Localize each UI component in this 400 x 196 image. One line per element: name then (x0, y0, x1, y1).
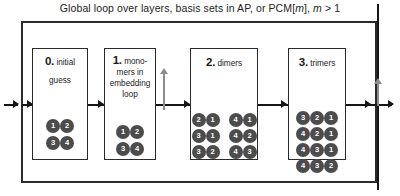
trimer-node: 1 (324, 127, 338, 141)
trimer-node: 3 (310, 143, 324, 157)
node-row: 3 2 1 (296, 111, 338, 125)
trimer-node: 3 (310, 159, 324, 173)
frame-to-stage-0-arrow (27, 100, 33, 108)
monomer-node: 1 (116, 125, 130, 139)
stage-0-to-1-arrow (98, 100, 104, 108)
diagram-title-italic-m-1: m (295, 2, 304, 14)
stage-1-label-line3: embedding (107, 78, 153, 89)
monomer-node: 2 (130, 125, 144, 139)
trimer-node: 4 (296, 143, 310, 157)
dimer-node: 3 (243, 145, 257, 159)
stage-box-monomers[interactable]: 1. mono- mers in embedding loop 1 2 3 4 (104, 48, 156, 160)
node-group: 1 2 (46, 119, 74, 133)
trimer-node: 2 (310, 127, 324, 141)
trimer-group: 3 2 1 (296, 111, 338, 125)
stage-2-heading: 2. dimers (191, 57, 257, 69)
dimer-group: 3 2 (192, 145, 220, 159)
diagram-title-middle: ], (304, 2, 313, 14)
node-row: 1 2 (116, 125, 144, 139)
stage-2-label-line1: dimers (217, 59, 242, 68)
node-group: 3 4 (46, 136, 74, 150)
dimer-node: 4 (229, 145, 243, 159)
embedding-loop-line (163, 72, 165, 110)
dimer-node: 2 (206, 145, 220, 159)
dimer-node: 2 (192, 113, 206, 127)
entry-arrow-head (13, 100, 19, 108)
stage-3-to-exit-line (346, 104, 378, 106)
stage-1-label-line2: mers in (107, 67, 153, 78)
dimer-node: 1 (243, 113, 257, 127)
monomer-node: 1 (46, 119, 60, 133)
dimer-group: 4 2 (229, 129, 257, 143)
stage-0-label-line1: initial (56, 58, 75, 67)
dimer-node: 1 (206, 129, 220, 143)
node-row: 4 3 2 (296, 159, 338, 173)
diagram-title: Global loop over layers, basis sets in A… (0, 2, 400, 14)
monomer-node: 2 (60, 119, 74, 133)
stage-1-to-2-arrow (184, 100, 190, 108)
trimer-node: 2 (324, 159, 338, 173)
dimer-group: 4 3 (229, 145, 257, 159)
trimer-group: 4 2 1 (296, 127, 338, 141)
embedding-loop-arrow-head (160, 68, 168, 74)
trimer-node: 4 (296, 159, 310, 173)
stage-box-trimers[interactable]: 3. trimers 3 2 1 4 2 1 4 (288, 48, 346, 160)
dimer-node: 4 (229, 113, 243, 127)
diagram-title-suffix: > 1 (322, 2, 340, 14)
stage-3-heading: 3. trimers (289, 57, 345, 69)
stage-1-number: 1. (113, 54, 122, 66)
node-row: 3 4 (46, 136, 74, 150)
stage-box-dimers[interactable]: 2. dimers 2 1 4 1 3 1 4 (190, 48, 258, 160)
stage-1-label-line1: mono- (124, 57, 147, 66)
stage-0-heading: 0. initial guess (33, 56, 87, 86)
stage-0-label-line2: guess (35, 75, 85, 86)
node-row: 4 3 1 (296, 143, 338, 157)
node-row: 1 2 (46, 119, 74, 133)
monomer-node: 3 (116, 142, 130, 156)
dimer-group: 4 1 (229, 113, 257, 127)
trimer-node: 4 (296, 127, 310, 141)
stage-3-node-grid: 3 2 1 4 2 1 4 3 1 (289, 111, 345, 173)
exit-arrow-head (388, 100, 394, 108)
stage-1-heading: 1. mono- mers in embedding loop (105, 55, 155, 100)
dimer-group: 3 1 (192, 129, 220, 143)
node-row: 4 2 1 (296, 127, 338, 141)
stage-box-initial-guess[interactable]: 0. initial guess 1 2 3 4 (32, 48, 88, 160)
diagram-title-italic-m-2: m (313, 2, 322, 14)
dimer-node: 3 (192, 145, 206, 159)
stage-1-label-line4: loop (107, 89, 153, 100)
node-row: 2 1 4 1 (192, 113, 257, 127)
stage-1-node-grid: 1 2 3 4 (105, 125, 155, 156)
dimer-node: 3 (192, 129, 206, 143)
stage-0-number: 0. (45, 55, 54, 67)
node-row: 3 1 4 2 (192, 129, 257, 143)
global-loop-rail-upper (377, 4, 379, 82)
diagram-title-prefix: Global loop over layers, basis sets in A… (60, 2, 295, 14)
stage-3-to-exit-arrow (365, 100, 371, 108)
dimer-group: 2 1 (192, 113, 220, 127)
monomer-node: 3 (46, 136, 60, 150)
trimer-node: 1 (324, 143, 338, 157)
monomer-node: 4 (130, 142, 144, 156)
trimer-node: 3 (296, 111, 310, 125)
global-loop-return-line (377, 82, 379, 106)
stage-3-label-line1: trimers (310, 59, 335, 68)
global-loop-arrow-head (374, 78, 382, 84)
global-loop-rail-lower (377, 104, 379, 190)
stage-2-node-grid: 2 1 4 1 3 1 4 2 3 (191, 113, 257, 159)
dimer-node: 4 (229, 129, 243, 143)
stage-2-to-3-arrow (281, 100, 287, 108)
dimer-node: 2 (243, 129, 257, 143)
node-row: 3 2 4 3 (192, 145, 257, 159)
node-row: 3 4 (116, 142, 144, 156)
node-group: 3 4 (116, 142, 144, 156)
stage-3-number: 3. (299, 56, 308, 68)
workflow-diagram: Global loop over layers, basis sets in A… (0, 0, 400, 196)
trimer-node: 1 (324, 111, 338, 125)
stage-2-number: 2. (206, 56, 215, 68)
trimer-group: 4 3 1 (296, 143, 338, 157)
trimer-group: 4 3 2 (296, 159, 338, 173)
trimer-node: 2 (310, 111, 324, 125)
dimer-node: 1 (206, 113, 220, 127)
monomer-node: 4 (60, 136, 74, 150)
